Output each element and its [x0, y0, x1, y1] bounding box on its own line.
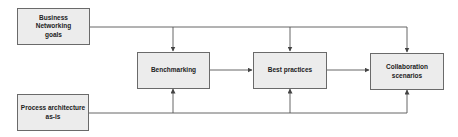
- edge-goals-bus: [90, 27, 407, 52]
- edge-process-bus: [89, 90, 407, 113]
- node-process-architecture: Process architecture as-is: [17, 94, 89, 131]
- node-business-networking-goals: Business Networking goals: [17, 8, 90, 45]
- node-benchmarking: Benchmarking: [137, 52, 210, 89]
- node-collaboration-scenarios: Collaboration scenarios: [370, 53, 444, 90]
- node-best-practices: Best practices: [253, 52, 327, 89]
